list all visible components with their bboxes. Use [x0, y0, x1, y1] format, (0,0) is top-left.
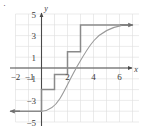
x-tick-2: 2 [65, 72, 70, 82]
x-tick-neg1: −1 [25, 72, 35, 82]
x-tick-4: 4 [91, 72, 96, 82]
y-tick-3: 3 [32, 31, 37, 41]
y-tick-neg5: −5 [26, 118, 36, 128]
y-tick-5: 5 [32, 10, 37, 20]
y-tick-neg3: −3 [26, 96, 36, 106]
y-tick-1: 1 [32, 53, 37, 63]
y-axis-label: y [43, 4, 48, 13]
x-tick-6: 6 [117, 72, 122, 82]
x-tick-neg2: −2 [11, 72, 21, 82]
x-axis-label: x [133, 65, 138, 74]
x-axis-tick-labels: −2 2 4 6 −1 [11, 72, 123, 82]
graph-figure: 5 3 1 −1 −3 −5 −2 2 4 6 −1 x y · [0, 0, 145, 131]
corner-mark: · [3, 0, 6, 10]
coordinate-plane-svg: 5 3 1 −1 −3 −5 −2 2 4 6 −1 x y · [0, 0, 145, 131]
